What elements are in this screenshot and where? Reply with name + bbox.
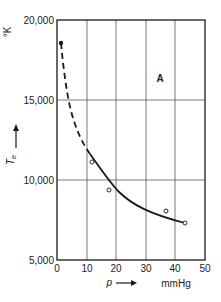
filled-data-point — [59, 41, 63, 45]
x-arrow-icon — [116, 280, 137, 286]
x-tick-40: 40 — [169, 263, 181, 274]
y-tick-20000: 20,000 — [23, 15, 54, 26]
y-axis-unit: °K — [2, 26, 13, 37]
y-axis-label: Te — [5, 155, 17, 165]
x-tick-20: 20 — [110, 263, 122, 274]
y-tick-5000: 5,000 — [29, 255, 54, 266]
x-tick-0: 0 — [54, 263, 60, 274]
x-tick-50: 50 — [199, 263, 211, 274]
curve-dashed — [61, 43, 90, 154]
curve-annotation: A — [156, 73, 163, 84]
x-axis-unit: mmHg — [161, 278, 190, 289]
y-tick-10000: 10,000 — [23, 175, 54, 186]
svg-text:Te: Te — [5, 155, 17, 165]
x-tick-30: 30 — [140, 263, 152, 274]
y-tick-15000: 15,000 — [23, 95, 54, 106]
svg-text:°K: °K — [2, 26, 13, 37]
open-data-points — [90, 160, 187, 225]
x-axis-ticks: 0 10 20 30 40 50 — [54, 263, 211, 274]
x-tick-10: 10 — [81, 263, 93, 274]
x-axis-label: p — [105, 277, 112, 288]
curve-solid — [90, 154, 185, 223]
y-axis-ticks: 20,000 15,000 10,000 5,000 — [23, 15, 54, 266]
y-arrow-icon — [13, 124, 19, 148]
chart: 20,000 15,000 10,000 5,000 0 10 20 30 40… — [0, 0, 221, 302]
